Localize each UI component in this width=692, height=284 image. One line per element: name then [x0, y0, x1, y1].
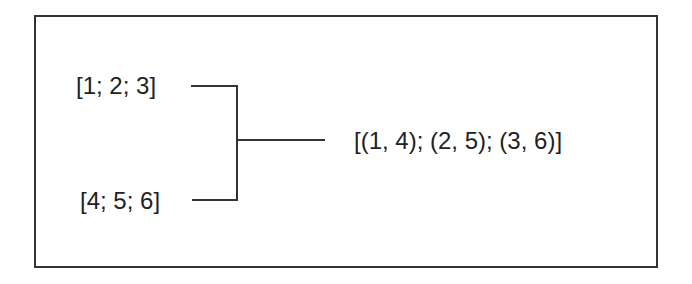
bracket-connector: [0, 0, 692, 284]
merge-bracket: [191, 86, 237, 200]
